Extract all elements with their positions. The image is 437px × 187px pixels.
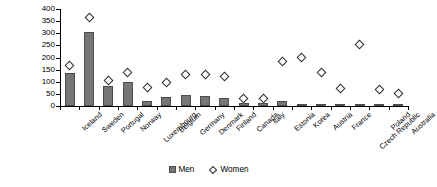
marker-women-norway — [123, 67, 133, 77]
marker-women-austria — [316, 67, 326, 77]
chart-legend: MenWomen — [0, 165, 433, 174]
bar-men-sweden — [84, 32, 94, 106]
x-tick-mark — [292, 106, 293, 110]
bar-men-poland — [374, 104, 384, 106]
bar-men-korea — [297, 104, 307, 106]
marker-women-france — [335, 83, 345, 93]
marker-women-sweden — [84, 13, 94, 23]
bar-men-iceland — [65, 73, 75, 106]
bar-men-estonia — [277, 101, 287, 106]
y-tick-label: 250 — [25, 40, 55, 49]
bar-men-germany — [181, 95, 191, 106]
bar-men-luxembourg — [142, 101, 152, 106]
marker-women-germany — [181, 70, 191, 80]
bar-men-czech-republic — [355, 104, 365, 106]
women-diamond-icon — [209, 166, 217, 174]
legend-label-men: Men — [179, 165, 195, 174]
y-tick-label: 350 — [25, 16, 55, 25]
bar-men-australia — [393, 104, 403, 106]
y-tick-label: 300 — [25, 28, 55, 37]
marker-women-czech-republic — [355, 39, 365, 49]
x-tick-mark — [234, 106, 235, 110]
y-tick-label: 400 — [25, 4, 55, 13]
x-tick-mark — [99, 106, 100, 110]
x-tick-mark — [215, 106, 216, 110]
y-tick-label: 150 — [25, 65, 55, 74]
bar-men-norway — [123, 82, 133, 106]
x-label-austria: Austria — [331, 110, 354, 132]
bar-men-denmark — [200, 96, 210, 106]
marker-women-portugal — [103, 75, 113, 85]
plot-area — [60, 9, 408, 106]
marker-women-australia — [393, 89, 403, 99]
marker-women-korea — [297, 53, 307, 63]
marker-women-belgium — [161, 78, 171, 88]
y-tick-label: 0 — [25, 101, 55, 110]
bar-men-canada — [239, 103, 249, 106]
marker-women-estonia — [277, 56, 287, 66]
x-tick-mark — [331, 106, 332, 110]
x-tick-mark — [60, 106, 61, 110]
legend-item-women: Women — [210, 165, 264, 174]
bar-men-belgium — [161, 97, 171, 106]
bar-men-finland — [219, 98, 229, 106]
legend-label-women: Women — [220, 165, 248, 174]
bar-men-portugal — [103, 86, 113, 106]
marker-women-poland — [374, 85, 384, 95]
men-swatch-icon — [169, 166, 176, 173]
bar-men-austria — [316, 104, 326, 106]
x-tick-mark — [79, 106, 80, 110]
marker-women-finland — [219, 72, 229, 82]
y-tick-label: 100 — [25, 77, 55, 86]
marker-women-denmark — [200, 70, 210, 80]
bar-men-france — [335, 104, 345, 106]
y-tick-label: 50 — [25, 89, 55, 98]
y-tick-label: 200 — [25, 53, 55, 62]
x-tick-mark — [408, 106, 409, 110]
x-tick-mark — [369, 106, 370, 110]
x-label-iceland: Iceland — [80, 110, 104, 133]
marker-women-iceland — [65, 61, 75, 71]
x-tick-mark — [253, 106, 254, 110]
legend-item-men: Men — [169, 165, 211, 174]
x-tick-mark — [176, 106, 177, 110]
x-tick-mark — [389, 106, 390, 110]
x-tick-mark — [350, 106, 351, 110]
x-label-france: France — [350, 110, 373, 132]
marker-women-luxembourg — [142, 82, 152, 92]
